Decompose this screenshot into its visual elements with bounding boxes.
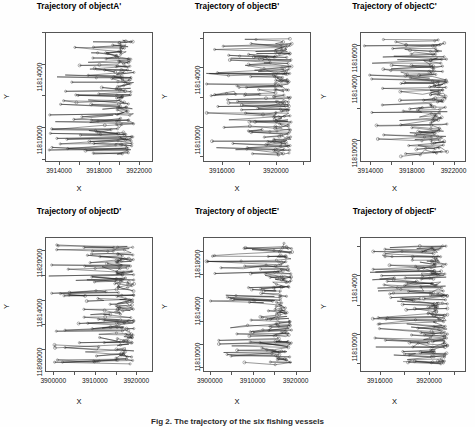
y-tick-label: 11814000: [351, 275, 358, 303]
x-tick-label: 3914000: [348, 167, 392, 174]
x-tick: [296, 372, 297, 375]
panel-xlabel-c: X: [317, 184, 472, 193]
x-tick: [210, 372, 211, 375]
x-tick: [276, 162, 277, 165]
x-tick: [222, 162, 223, 165]
panel-xlabel-d: X: [0, 397, 158, 406]
y-tick: [42, 32, 45, 33]
y-tick-label: 11814000: [194, 297, 201, 325]
trajectory-trace-c: [317, 2, 475, 212]
x-tick: [119, 162, 120, 165]
trajectory-trace-b: [158, 2, 316, 212]
panel-title-f: Trajectory of objectF': [317, 207, 472, 217]
trajectory-clip: [317, 2, 475, 212]
trajectory-clip: [158, 2, 316, 212]
panel-xlabel-a: X: [0, 184, 158, 193]
x-tick-label: 3900000: [31, 377, 75, 384]
panel-objectF: Trajectory of objectF' Y X 3916000392000…: [317, 207, 475, 412]
x-tick-label: 3916000: [358, 377, 402, 384]
x-tick: [53, 372, 54, 375]
panel-objectA: Trajectory of objectA' Y X 3914000391800…: [0, 2, 158, 202]
x-tick: [116, 372, 117, 375]
y-tick: [42, 159, 45, 160]
figure-trajectories: Trajectory of objectA' Y X 3914000391800…: [0, 0, 475, 427]
y-tick: [357, 305, 360, 306]
panel-objectD: Trajectory of objectD' Y X 3900000391000…: [0, 207, 158, 412]
x-tick-label: 3910000: [73, 377, 117, 384]
x-tick-label: 3920000: [114, 377, 158, 384]
y-tick-label: 11814000: [351, 76, 358, 104]
panel-title-d: Trajectory of objectD': [0, 207, 158, 217]
x-tick: [79, 162, 80, 165]
panel-xlabel-e: X: [158, 397, 316, 406]
panel-ylabel-c: Y: [319, 87, 328, 107]
y-tick-label: 11810000: [351, 333, 358, 361]
x-tick: [391, 162, 392, 165]
panel-title-e: Trajectory of objectE': [158, 207, 316, 217]
y-tick: [357, 246, 360, 247]
x-tick-label: 3910000: [231, 377, 275, 384]
y-tick-label: 11814000: [36, 63, 43, 91]
x-tick: [99, 162, 100, 165]
x-tick: [454, 162, 455, 165]
y-tick: [200, 97, 203, 98]
x-tick-label: 3922000: [117, 167, 161, 174]
trajectory-trace-a: [0, 2, 158, 212]
y-tick: [357, 108, 360, 109]
x-tick: [429, 372, 430, 375]
x-tick: [454, 372, 455, 375]
panel-objectB: Trajectory of objectB' Y X 3916000392000…: [158, 2, 316, 202]
trajectory-trace-f: [317, 207, 475, 417]
panel-ylabel-b: Y: [160, 87, 169, 107]
trajectory-trace-e: [158, 207, 316, 417]
panel-ylabel-e: Y: [160, 297, 169, 317]
trajectory-clip: [158, 207, 316, 417]
x-tick-label: 3914000: [37, 167, 81, 174]
x-tick-label: 3918000: [77, 167, 121, 174]
y-tick-label: 11810000: [194, 344, 201, 372]
x-tick: [59, 162, 60, 165]
trajectory-trace-d: [0, 207, 158, 417]
y-tick: [357, 363, 360, 364]
y-tick-label: 11814000: [194, 67, 201, 95]
x-tick: [380, 372, 381, 375]
x-tick: [95, 372, 96, 375]
x-tick-label: 3900000: [188, 377, 232, 384]
figure-caption: Fig 2. The trajectory of the six fishing…: [0, 417, 475, 426]
x-tick-label: 3918000: [390, 167, 434, 174]
panel-title-c: Trajectory of objectC': [317, 2, 472, 12]
y-tick-label: 11808000: [36, 348, 43, 376]
panel-ylabel-d: Y: [2, 297, 11, 317]
x-tick: [231, 372, 232, 375]
x-tick: [249, 162, 250, 165]
y-tick-label: 11810000: [194, 126, 201, 154]
panel-xlabel-f: X: [317, 397, 472, 406]
y-tick: [42, 95, 45, 96]
panel-ylabel-f: Y: [319, 297, 328, 317]
y-tick-label: 11818000: [194, 250, 201, 278]
panel-objectE: Trajectory of objectE' Y X 3900000391000…: [158, 207, 316, 412]
x-tick-label: 3920000: [407, 377, 451, 384]
panel-title-a: Trajectory of objectA': [0, 2, 158, 12]
x-tick: [412, 162, 413, 165]
y-tick-label: 11820000: [36, 250, 43, 278]
y-tick-label: 11810000: [36, 127, 43, 155]
x-tick: [433, 162, 434, 165]
x-tick: [370, 162, 371, 165]
y-tick: [200, 38, 203, 39]
y-tick: [200, 156, 203, 157]
x-tick-label: 3916000: [200, 167, 244, 174]
x-tick: [274, 372, 275, 375]
panel-xlabel-b: X: [158, 184, 316, 193]
trajectory-clip: [0, 207, 158, 417]
panel-objectC: Trajectory of objectC' Y X 3914000391800…: [317, 2, 475, 202]
x-tick: [136, 372, 137, 375]
x-tick: [139, 162, 140, 165]
trajectory-clip: [0, 2, 158, 212]
x-tick: [404, 372, 405, 375]
y-tick-label: 11810000: [351, 139, 358, 167]
x-tick: [74, 372, 75, 375]
x-tick-label: 3920000: [274, 377, 318, 384]
x-tick: [253, 372, 254, 375]
y-tick-label: 11814000: [36, 299, 43, 327]
